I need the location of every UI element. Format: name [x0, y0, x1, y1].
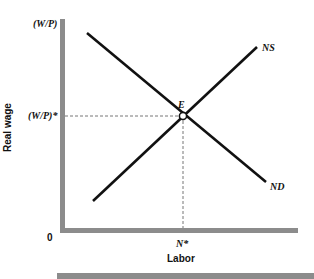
y-axis: [60, 19, 65, 233]
labor-supply-curve: [93, 47, 257, 201]
origin-label: 0: [47, 232, 53, 243]
supply-curve-label: NS: [262, 42, 275, 53]
demand-curve-label: ND: [270, 181, 284, 192]
x-axis-label: Labor: [167, 253, 195, 264]
x-axis: [60, 228, 298, 233]
y-equilibrium-label: (W/P)*: [28, 110, 57, 121]
bottom-divider: [57, 273, 314, 279]
equilibrium-label: E: [178, 99, 185, 110]
equilibrium-point: [179, 112, 186, 119]
labor-market-diagram: (W/P) (W/P)* E NS ND 0 N* Labor Real wag…: [0, 0, 314, 279]
y-axis-label: Real wage: [2, 103, 13, 152]
labor-demand-curve: [87, 33, 266, 182]
y-top-label: (W/P): [33, 18, 57, 29]
x-equilibrium-label: N*: [176, 238, 188, 249]
